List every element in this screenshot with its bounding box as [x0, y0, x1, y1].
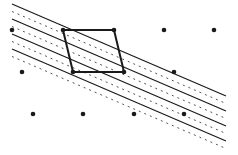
lattice-point	[71, 70, 76, 75]
lattice-point	[112, 28, 117, 33]
solid-line	[12, 49, 226, 141]
lattice-point	[122, 70, 127, 75]
lattice-point	[182, 112, 187, 117]
lattice-point	[10, 28, 15, 33]
lattice-point	[132, 112, 137, 117]
lattice-diagram	[0, 0, 238, 155]
lattice-point	[31, 112, 36, 117]
dashed-line	[12, 57, 226, 149]
lattice-point	[162, 28, 167, 33]
lattice-point	[61, 28, 66, 33]
lattice-point	[81, 112, 86, 117]
lattice-point	[212, 28, 217, 33]
fundamental-parallelogram	[63, 30, 124, 72]
lattice-point	[20, 70, 25, 75]
solid-line	[12, 19, 226, 111]
dashed-line	[12, 12, 226, 104]
lattice-point	[172, 70, 177, 75]
